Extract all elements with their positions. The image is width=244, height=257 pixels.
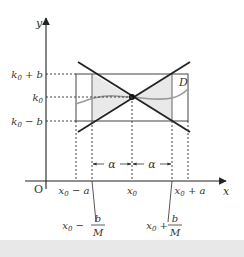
y-tick-k0: k0 bbox=[32, 92, 43, 105]
svg-text:b: b bbox=[95, 213, 101, 224]
y-tick-k0-minus-b: k0 − b bbox=[11, 116, 43, 129]
origin-label: O bbox=[34, 183, 43, 196]
svg-text:x0 −: x0 − bbox=[62, 220, 84, 233]
region-d-label: D bbox=[178, 76, 188, 89]
footer-bar bbox=[0, 240, 244, 257]
y-tick-k0-plus-b: k0 + b bbox=[11, 69, 43, 82]
y-axis-label: y bbox=[35, 17, 43, 30]
alpha-label-left: α bbox=[108, 158, 116, 171]
svg-text:b: b bbox=[172, 213, 178, 224]
alpha-label-right: α bbox=[148, 158, 156, 171]
svg-text:M: M bbox=[92, 227, 104, 238]
svg-text:x0 +: x0 + bbox=[146, 220, 168, 233]
svg-text:M: M bbox=[169, 227, 181, 238]
x-tick-x0: x0 bbox=[127, 185, 138, 198]
x-tick-x0-minus-a: x0 − a bbox=[59, 185, 90, 198]
label-x0-minus-b-over-m: x0 − b M bbox=[62, 213, 105, 238]
label-x0-plus-b-over-m: x0 + b M bbox=[146, 213, 182, 238]
x-tick-x0-plus-a: x0 + a bbox=[175, 185, 206, 198]
lipschitz-existence-diagram: α α y x O k0 + b k0 k0 − b x0 − a x0 x0 … bbox=[0, 0, 244, 257]
x-axis-label: x bbox=[223, 185, 230, 198]
